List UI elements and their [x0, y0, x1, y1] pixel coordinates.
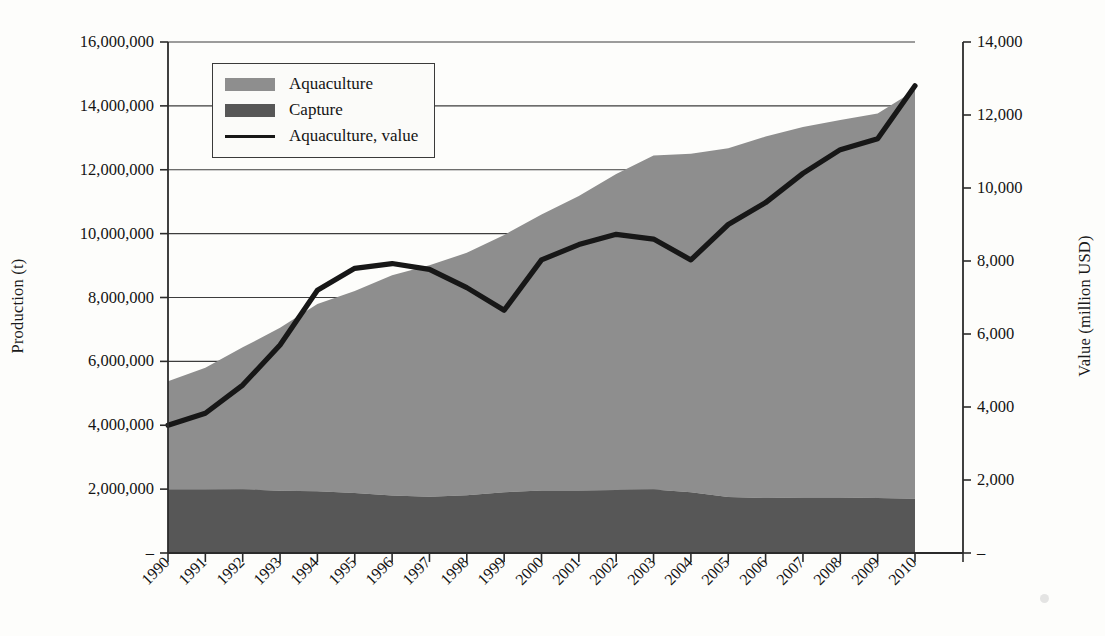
chart-legend: Aquaculture Capture Aquaculture, value [212, 63, 435, 158]
scan-artifact [1040, 594, 1049, 603]
legend-swatch-aquaculture [225, 78, 275, 91]
area-capture [168, 489, 915, 553]
legend-swatch-capture [225, 104, 275, 117]
legend-item-aquaculture: Aquaculture [225, 71, 418, 97]
plot-area [0, 0, 1105, 636]
legend-item-capture: Capture [225, 97, 418, 123]
legend-label-capture: Capture [289, 100, 343, 120]
legend-label-aquaculture-value: Aquaculture, value [289, 126, 418, 146]
chart-figure: Production (t) Value (million USD) 16,00… [0, 0, 1105, 636]
legend-item-aquaculture-value: Aquaculture, value [225, 123, 418, 149]
legend-label-aquaculture: Aquaculture [289, 74, 373, 94]
legend-line-aquaculture-value [225, 130, 275, 143]
